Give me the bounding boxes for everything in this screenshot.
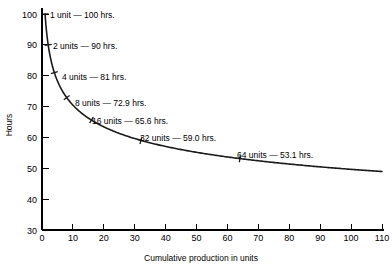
label-32-units: 32 units — 59.0 hrs. bbox=[140, 133, 216, 143]
y-tick-label-40: 40 bbox=[27, 195, 37, 205]
x-tick-label-100: 100 bbox=[344, 233, 359, 243]
y-tick-label-90: 90 bbox=[27, 40, 37, 50]
learning-curve-line bbox=[45, 14, 382, 172]
label-1-unit: 1 unit — 100 hrs. bbox=[50, 10, 115, 20]
x-tick-label-80: 80 bbox=[284, 233, 294, 243]
y-axis-group: 30405060708090100 Hours bbox=[4, 8, 49, 236]
x-axis-group: 0102030405060708090100110 Cumulative pro… bbox=[39, 224, 389, 263]
x-tick-marks bbox=[73, 224, 382, 230]
x-tick-label-50: 50 bbox=[192, 233, 202, 243]
y-tick-label-60: 60 bbox=[27, 133, 37, 143]
y-tick-label-30: 30 bbox=[27, 226, 37, 236]
label-16-units: 16 units — 65.6 hrs. bbox=[92, 116, 168, 126]
x-tick-label-20: 20 bbox=[99, 233, 109, 243]
label-64-units: 64 units — 53.1 hrs. bbox=[237, 150, 313, 160]
x-tick-label-70: 70 bbox=[253, 233, 263, 243]
x-axis-title: Cumulative production in units bbox=[144, 253, 258, 263]
learning-curve-chart: 30405060708090100 Hours 0102030405060708… bbox=[0, 0, 392, 271]
y-tick-label-80: 80 bbox=[27, 71, 37, 81]
x-tick-label-90: 90 bbox=[315, 233, 325, 243]
data-point-annotations: 1 unit — 100 hrs.2 units — 90 hrs.4 unit… bbox=[50, 10, 313, 160]
y-tick-label-70: 70 bbox=[27, 102, 37, 112]
series-group bbox=[42, 14, 383, 172]
label-2-units: 2 units — 90 hrs. bbox=[53, 41, 117, 51]
x-tick-label-0: 0 bbox=[39, 233, 44, 243]
label-8-units: 8 units — 72.9 hrs. bbox=[75, 98, 146, 108]
y-tick-label-100: 100 bbox=[22, 10, 37, 20]
chart-canvas: 30405060708090100 Hours 0102030405060708… bbox=[0, 0, 392, 271]
label-4-units: 4 units — 81 hrs. bbox=[62, 72, 126, 82]
y-tick-labels: 30405060708090100 bbox=[22, 10, 37, 236]
y-axis-title: Hours bbox=[4, 114, 14, 137]
x-tick-label-110: 110 bbox=[375, 233, 389, 243]
x-tick-label-30: 30 bbox=[130, 233, 140, 243]
x-tick-label-40: 40 bbox=[161, 233, 171, 243]
y-tick-label-50: 50 bbox=[27, 164, 37, 174]
x-tick-label-10: 10 bbox=[68, 233, 78, 243]
x-tick-labels: 0102030405060708090100110 bbox=[39, 233, 389, 243]
x-tick-label-60: 60 bbox=[222, 233, 232, 243]
